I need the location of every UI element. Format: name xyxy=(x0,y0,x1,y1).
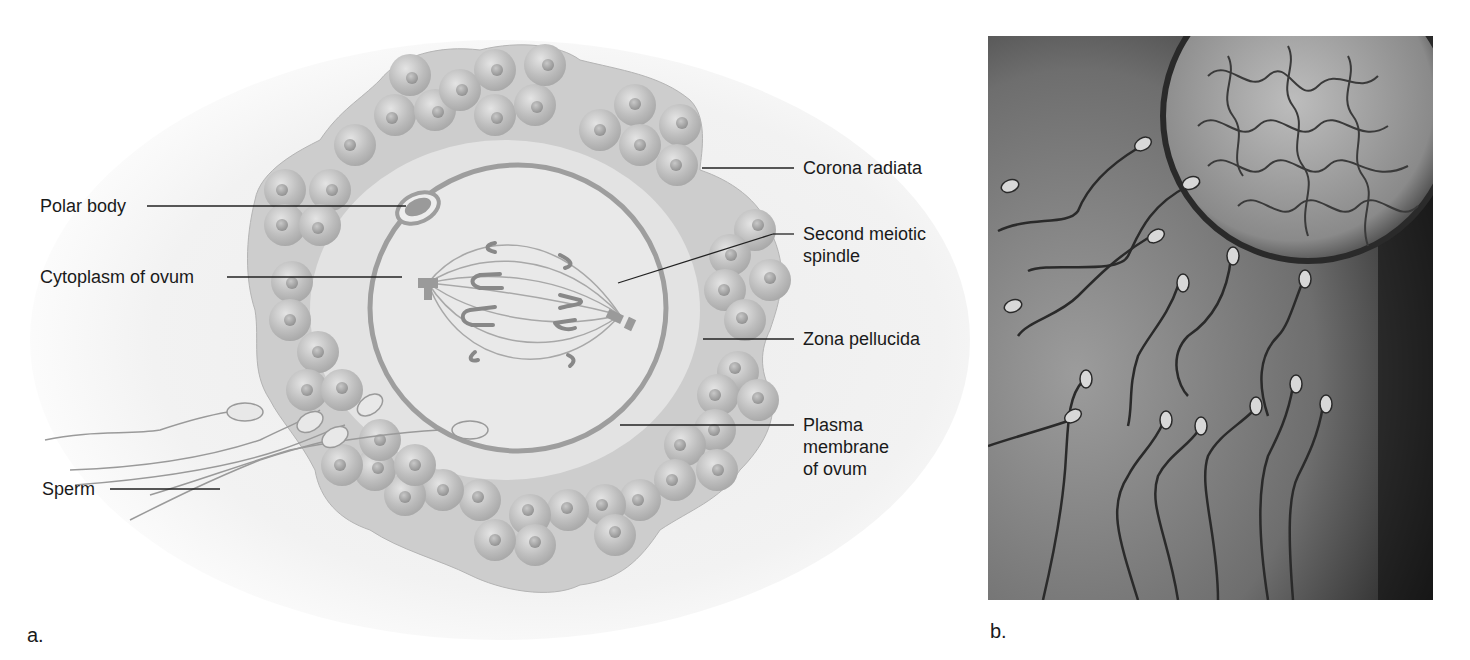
label-second-meiotic-spindle: Second meiotic spindle xyxy=(803,223,926,267)
panel-a-letter: a. xyxy=(27,624,44,647)
label-plasma-line2: membrane xyxy=(803,436,889,458)
label-corona-radiata: Corona radiata xyxy=(803,157,922,179)
panel-b-letter: b. xyxy=(990,620,1007,643)
micrograph-illustration xyxy=(988,36,1433,600)
label-plasma-line1: Plasma xyxy=(803,414,889,436)
label-spindle-line2: spindle xyxy=(803,245,926,267)
label-sperm: Sperm xyxy=(42,478,95,500)
label-plasma-membrane: Plasma membrane of ovum xyxy=(803,414,889,480)
label-cytoplasm-of-ovum: Cytoplasm of ovum xyxy=(40,266,194,288)
label-polar-body: Polar body xyxy=(40,195,126,217)
label-spindle-line1: Second meiotic xyxy=(803,223,926,245)
label-plasma-line3: of ovum xyxy=(803,458,889,480)
panel-b-micrograph xyxy=(988,36,1433,600)
label-zona-pellucida: Zona pellucida xyxy=(803,328,920,350)
panel-a-illustration: Polar body Cytoplasm of ovum Sperm Coron… xyxy=(0,0,980,660)
